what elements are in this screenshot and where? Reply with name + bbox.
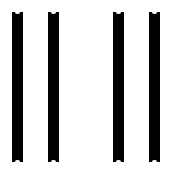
vertical-bar-1 bbox=[12, 12, 23, 162]
vertical-bar-4 bbox=[149, 12, 160, 162]
vertical-bar-2 bbox=[48, 12, 59, 162]
vertical-bar-3 bbox=[113, 12, 124, 162]
